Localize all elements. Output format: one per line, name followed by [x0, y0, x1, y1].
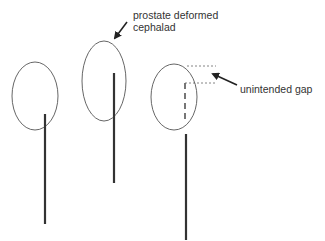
needle-diagram: prostate deformed cephalad unintended ga… [0, 0, 325, 241]
annotation-label-line-1: prostate deformed [133, 9, 218, 21]
annotation-gap: unintended gap [213, 74, 313, 95]
annotation-deformed: prostate deformed cephalad [115, 9, 218, 38]
annotation-label-line-2: cephalad [133, 21, 176, 33]
prostate-ellipse [12, 62, 58, 130]
annotation-label: unintended gap [240, 83, 313, 95]
panel-3 [151, 64, 216, 240]
arrow-icon [115, 22, 127, 38]
panel-1 [12, 62, 58, 224]
panel-2 [82, 41, 126, 183]
prostate-ellipse [151, 64, 197, 130]
arrow-icon [213, 74, 237, 85]
prostate-ellipse-deformed [82, 41, 126, 121]
